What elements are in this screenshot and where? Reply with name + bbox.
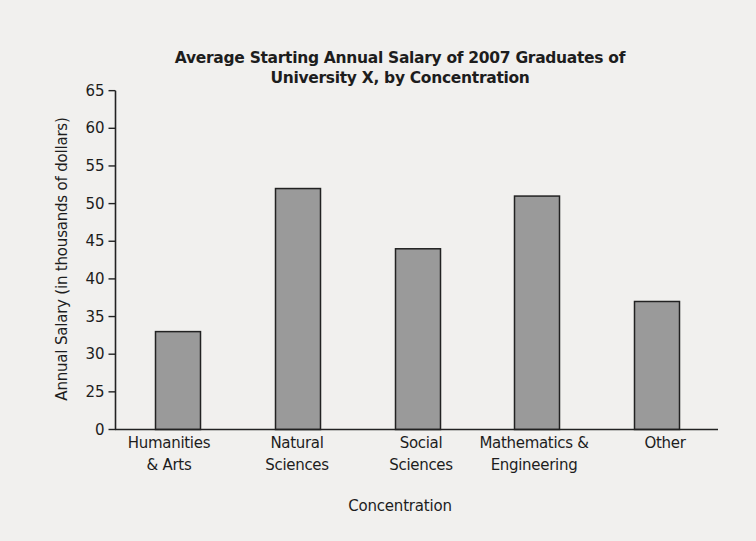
y-tick-label: 55 bbox=[85, 157, 104, 175]
bars bbox=[156, 189, 680, 430]
y-tick-label: 65 bbox=[85, 82, 104, 100]
y-tick-label: 40 bbox=[85, 270, 104, 288]
bar-humanities-arts bbox=[156, 332, 201, 430]
x-category-label: Natural Sciences bbox=[265, 432, 329, 476]
y-tick-label: 60 bbox=[85, 119, 104, 137]
x-category-label: Humanities & Arts bbox=[128, 432, 210, 476]
bar-mathematics-engineering bbox=[515, 196, 560, 429]
x-category-label: Other bbox=[644, 432, 685, 454]
y-tick-label: 30 bbox=[85, 345, 104, 363]
y-tick-label: 45 bbox=[85, 232, 104, 250]
bar-social-sciences bbox=[396, 249, 441, 430]
plot-area: 0253035404550556065 bbox=[0, 0, 756, 541]
y-axis: 0253035404550556065 bbox=[85, 82, 115, 439]
x-axis-label: Concentration bbox=[300, 497, 500, 515]
bar-natural-sciences bbox=[276, 189, 321, 430]
bar-other bbox=[635, 301, 680, 429]
y-tick-label: 50 bbox=[85, 195, 104, 213]
y-tick-label: 0 bbox=[95, 421, 105, 439]
y-tick-label: 35 bbox=[85, 308, 104, 326]
y-tick-label: 25 bbox=[85, 383, 104, 401]
x-category-label: Mathematics & Engineering bbox=[479, 432, 588, 476]
x-category-label: Social Sciences bbox=[389, 432, 453, 476]
